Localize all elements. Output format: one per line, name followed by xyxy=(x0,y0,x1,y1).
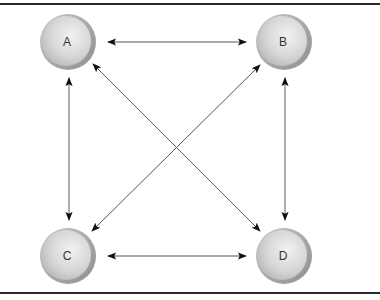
node-d-label: D xyxy=(279,249,288,263)
edges xyxy=(69,42,285,256)
node-b[interactable]: B xyxy=(256,14,312,70)
node-c-label: C xyxy=(63,249,72,263)
node-a[interactable]: A xyxy=(40,14,96,70)
node-b-label: B xyxy=(279,35,287,49)
node-d[interactable]: D xyxy=(256,228,312,284)
node-c[interactable]: C xyxy=(40,228,96,284)
node-a-label: A xyxy=(63,35,71,49)
network-diagram: A B C D xyxy=(0,0,380,300)
